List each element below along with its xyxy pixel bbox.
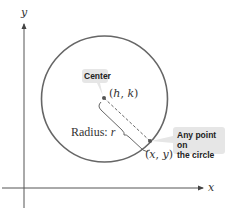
point-coordinates-label: (x, y) [145,148,173,161]
circle-diagram: y x (h, k) (x, y) Radius: r [0,0,226,210]
point-on-circle-callout: Any point on the circle [173,127,225,154]
center-callout-text: Center [84,71,111,81]
point-callout-line2: the circle [177,150,221,160]
center-callout: Center [82,69,108,83]
center-point [102,96,106,100]
center-callout-leader [97,83,103,96]
x-axis-label: x [208,181,215,194]
y-axis-label: y [20,6,28,19]
circle-point [148,139,152,143]
center-coordinates-label: (h, k) [109,87,138,100]
point-callout-line1: Any point on [177,130,221,150]
radius-label: Radius: r [71,125,116,139]
